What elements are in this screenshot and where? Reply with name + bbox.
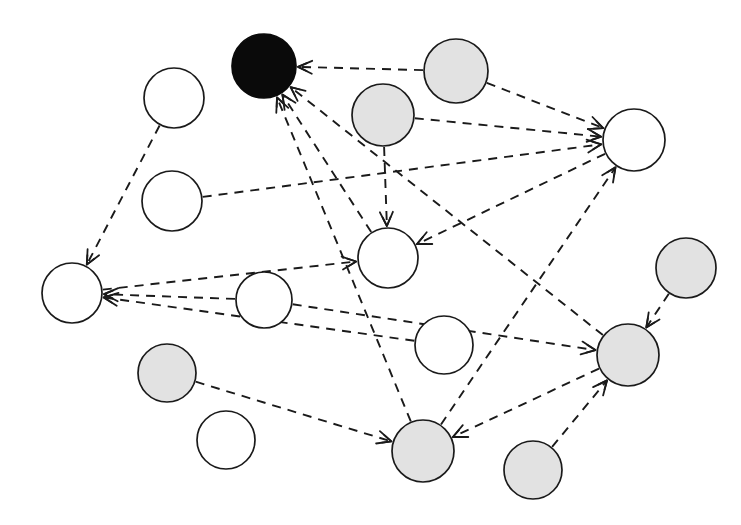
graph-edge — [417, 154, 605, 244]
graph-edge — [552, 380, 607, 447]
graph-node-white[interactable] — [144, 68, 204, 128]
graph-edge — [453, 369, 599, 437]
graph-edge — [384, 147, 387, 226]
graph-node-white[interactable] — [42, 263, 102, 323]
graph-node-gray[interactable] — [138, 344, 196, 402]
graph-edge — [646, 294, 669, 328]
graph-edge — [103, 262, 356, 290]
graph-node-gray[interactable] — [352, 84, 414, 146]
graph-node-black[interactable] — [232, 34, 296, 98]
edge-arrowhead-icon — [588, 117, 603, 129]
graph-edge — [203, 144, 602, 197]
graph-node-white[interactable] — [358, 228, 418, 288]
graph-edge — [487, 83, 603, 128]
graph-node-white[interactable] — [603, 109, 665, 171]
graph-edge — [291, 87, 603, 335]
edge-arrowhead-icon — [592, 142, 601, 150]
graph-node-gray[interactable] — [424, 39, 488, 103]
graph-node-gray[interactable] — [392, 420, 454, 482]
graph-node-white[interactable] — [197, 411, 255, 469]
graph-edge — [298, 67, 423, 70]
graph-figure — [0, 0, 741, 525]
graph-edge — [441, 167, 616, 424]
edge-arrowhead-icon — [586, 345, 595, 353]
graph-node-white[interactable] — [415, 316, 473, 374]
graph-node-white[interactable] — [236, 272, 292, 328]
edge-arrowhead-icon — [598, 380, 607, 389]
graph-edge — [415, 118, 601, 137]
graph-canvas — [0, 0, 741, 525]
graph-node-white[interactable] — [142, 171, 202, 231]
graph-edge — [104, 294, 235, 299]
graph-node-gray[interactable] — [656, 238, 716, 298]
node-layer — [42, 34, 716, 499]
graph-node-gray[interactable] — [597, 324, 659, 386]
graph-node-gray[interactable] — [504, 441, 562, 499]
